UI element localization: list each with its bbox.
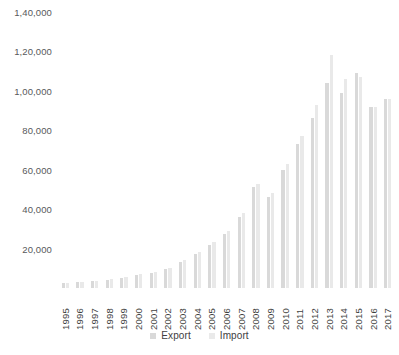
- bar-import[interactable]: [198, 252, 201, 288]
- bar-import[interactable]: [242, 213, 245, 288]
- x-axis-tick: 2001: [146, 290, 161, 330]
- bar-group: [58, 12, 73, 288]
- bar-export[interactable]: [120, 278, 123, 288]
- legend-entry-import[interactable]: Import: [209, 330, 249, 341]
- x-axis-tick: 2005: [205, 290, 220, 330]
- bar-import[interactable]: [66, 283, 69, 288]
- x-axis-tick: 1997: [87, 290, 102, 330]
- bar-export[interactable]: [267, 197, 270, 288]
- bar-export[interactable]: [194, 254, 197, 289]
- x-axis-tick-label: 1996: [74, 290, 85, 330]
- x-axis-tick: 2004: [190, 290, 205, 330]
- x-axis-tick: 2012: [307, 290, 322, 330]
- x-axis-tick: 2016: [366, 290, 381, 330]
- bar-export[interactable]: [340, 93, 343, 288]
- bar-group: [293, 12, 308, 288]
- x-axis-tick-label: 2008: [250, 290, 261, 330]
- bar-export[interactable]: [325, 83, 328, 288]
- x-axis-tick: 2010: [278, 290, 293, 330]
- bar-import[interactable]: [388, 99, 391, 288]
- x-axis-tick: 2011: [293, 290, 308, 330]
- legend-swatch-import-icon: [209, 333, 215, 339]
- bar-import[interactable]: [80, 282, 83, 288]
- x-axis-tick-label: 2017: [382, 290, 393, 330]
- legend-swatch-export-icon: [150, 333, 156, 339]
- bar-import[interactable]: [139, 274, 142, 288]
- bar-export[interactable]: [62, 283, 65, 288]
- bar-import[interactable]: [286, 164, 289, 288]
- bar-group: [205, 12, 220, 288]
- x-axis-tick-label: 2011: [294, 290, 305, 330]
- bar-import[interactable]: [227, 231, 230, 288]
- bar-import[interactable]: [374, 107, 377, 288]
- legend-entry-export[interactable]: Export: [150, 330, 191, 341]
- x-axis-tick-label: 2001: [148, 290, 159, 330]
- bar-export[interactable]: [296, 144, 299, 288]
- y-axis-tick-label: 1,20,000: [14, 46, 52, 57]
- x-axis-tick-label: 1999: [118, 290, 129, 330]
- bar-import[interactable]: [124, 277, 127, 288]
- bar-import[interactable]: [315, 105, 318, 288]
- bar-export[interactable]: [281, 170, 284, 288]
- bar-import[interactable]: [95, 281, 98, 288]
- bar-import[interactable]: [110, 279, 113, 288]
- bar-group: [380, 12, 395, 288]
- bar-export[interactable]: [369, 107, 372, 288]
- x-axis-tick: 2014: [336, 290, 351, 330]
- x-axis-tick-label: 2009: [265, 290, 276, 330]
- bar-import[interactable]: [212, 242, 215, 288]
- bar-export[interactable]: [106, 280, 109, 288]
- bar-import[interactable]: [330, 55, 333, 288]
- bar-import[interactable]: [256, 184, 259, 288]
- bar-import[interactable]: [300, 136, 303, 288]
- x-axis: 1995199619971998199920002001200220032004…: [56, 290, 399, 330]
- bar-import[interactable]: [168, 268, 171, 288]
- bar-group: [161, 12, 176, 288]
- bar-export[interactable]: [252, 187, 255, 288]
- bar-group: [131, 12, 146, 288]
- bar-export[interactable]: [135, 275, 138, 288]
- x-axis-tick-label: 2010: [280, 290, 291, 330]
- x-axis-tick-label: 2014: [338, 290, 349, 330]
- bar-group: [190, 12, 205, 288]
- bar-export[interactable]: [238, 217, 241, 288]
- bar-export[interactable]: [179, 262, 182, 288]
- bar-export[interactable]: [150, 273, 153, 288]
- bar-export[interactable]: [311, 118, 314, 288]
- bar-group: [102, 12, 117, 288]
- bar-export[interactable]: [355, 73, 358, 288]
- x-axis-tick-label: 2003: [177, 290, 188, 330]
- bar-group: [87, 12, 102, 288]
- bar-group: [146, 12, 161, 288]
- x-axis-tick-label: 2005: [206, 290, 217, 330]
- bar-group: [322, 12, 337, 288]
- y-axis-tick-label: 1,40,000: [14, 7, 52, 18]
- bar-export[interactable]: [164, 269, 167, 288]
- x-axis-tick: 2017: [380, 290, 395, 330]
- x-axis-tick-label: 2000: [133, 290, 144, 330]
- x-axis-tick: 2008: [249, 290, 264, 330]
- plot-area: [56, 12, 399, 288]
- y-axis-tick-label: 80,000: [22, 125, 52, 136]
- y-axis-tick-label: 40,000: [22, 204, 52, 215]
- bar-export[interactable]: [76, 282, 79, 288]
- bar-import[interactable]: [183, 260, 186, 288]
- x-axis-tick: 2015: [351, 290, 366, 330]
- x-axis-tick: 2002: [161, 290, 176, 330]
- bar-import[interactable]: [271, 193, 274, 288]
- bar-group: [278, 12, 293, 288]
- bar-import[interactable]: [344, 79, 347, 288]
- bar-export[interactable]: [91, 281, 94, 288]
- y-axis-tick-label: 60,000: [22, 164, 52, 175]
- bar-import[interactable]: [154, 272, 157, 288]
- bar-export[interactable]: [223, 234, 226, 288]
- bar-import[interactable]: [359, 77, 362, 288]
- bar-export[interactable]: [384, 99, 387, 288]
- bar-group: [249, 12, 264, 288]
- x-axis-tick-label: 2002: [162, 290, 173, 330]
- legend-label-export: Export: [161, 330, 191, 341]
- x-axis-tick-label: 2012: [309, 290, 320, 330]
- x-axis-tick: 2007: [234, 290, 249, 330]
- x-axis-tick: 2000: [131, 290, 146, 330]
- bar-export[interactable]: [208, 245, 211, 288]
